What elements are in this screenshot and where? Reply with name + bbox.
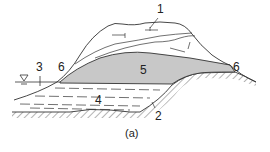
label-1: 1 xyxy=(157,3,164,15)
figure-caption: (a) xyxy=(125,128,138,139)
label-5: 5 xyxy=(140,64,147,76)
water-body-dashes xyxy=(20,88,160,110)
label-2: 2 xyxy=(155,110,162,122)
label-3: 3 xyxy=(36,61,43,73)
label-6-left: 6 xyxy=(58,61,65,73)
label-4: 4 xyxy=(95,94,102,106)
label-6-right: 6 xyxy=(233,61,240,73)
